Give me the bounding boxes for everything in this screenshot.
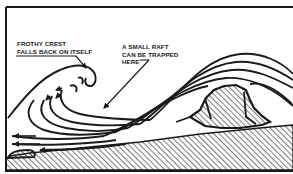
raft-annotation: A SMALL RAFT CAN BE TRAPPED HERE xyxy=(122,43,178,66)
flow-arrows xyxy=(14,88,62,150)
raft-annotation-line-3: HERE xyxy=(122,58,178,66)
raft-annotation-line-2: CAN BE TRAPPED xyxy=(122,51,178,59)
wave-diagram xyxy=(0,0,293,174)
curling-wave-crest xyxy=(8,66,150,151)
crest-annotation: FROTHY CREST FALLS BACK ON ITSELF xyxy=(17,40,92,55)
crest-annotation-line-2: FALLS BACK ON ITSELF xyxy=(17,48,92,56)
raft-annotation-line-1: A SMALL RAFT xyxy=(122,43,178,51)
crest-annotation-line-1: FROTHY CREST xyxy=(17,40,92,48)
raft-arrow xyxy=(104,60,149,108)
